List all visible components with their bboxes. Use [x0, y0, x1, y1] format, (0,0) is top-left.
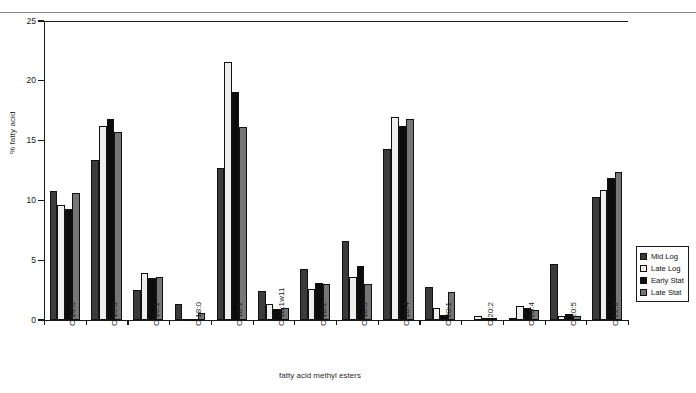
- y-tick-label: 25: [14, 16, 36, 26]
- legend-item: Late Stat: [640, 286, 684, 298]
- bar: [474, 316, 482, 320]
- y-tick-mark: [38, 200, 44, 201]
- x-tick-mark: [294, 320, 295, 325]
- bar: [133, 290, 141, 320]
- y-tick-mark: [38, 80, 44, 81]
- bar: [114, 132, 122, 320]
- legend-label: Late Stat: [651, 288, 681, 297]
- x-category-label: C 16:1: [152, 302, 161, 326]
- bar: [516, 306, 524, 320]
- x-category-label: C 18:3: [360, 302, 369, 326]
- x-category-label: C 20:1: [444, 302, 453, 326]
- x-tick-mark: [628, 320, 629, 325]
- bar: [600, 190, 608, 320]
- x-tick-mark: [378, 320, 379, 325]
- x-tick-mark: [44, 320, 45, 325]
- bar: [182, 319, 190, 321]
- x-category-label: C 18:2: [319, 302, 328, 326]
- x-tick-mark: [461, 320, 462, 325]
- legend-label: Mid Log: [651, 252, 678, 261]
- x-tick-mark: [419, 320, 420, 325]
- legend-swatch: [640, 277, 647, 284]
- x-category-label: C 16:0: [110, 302, 119, 326]
- chart-legend: Mid LogLate LogEarly StatLate Stat: [636, 246, 689, 302]
- x-category-label: C 14:0: [68, 302, 77, 326]
- x-category-label: C 18:4: [402, 302, 411, 326]
- y-tick-label: 20: [14, 75, 36, 85]
- bar: [509, 318, 517, 320]
- x-category-label: C 18:1: [235, 302, 244, 326]
- plot-area: [44, 21, 628, 320]
- bar: [300, 269, 308, 320]
- bar: [107, 119, 115, 320]
- y-tick-mark: [38, 140, 44, 141]
- legend-item: Early Stat: [640, 274, 684, 286]
- bar: [558, 316, 566, 320]
- legend-item: Mid Log: [640, 250, 684, 262]
- x-tick-mark: [86, 320, 87, 325]
- bar: [175, 304, 183, 320]
- bar: [57, 205, 65, 320]
- y-tick-label: 10: [14, 195, 36, 205]
- x-category-label: C 18:0: [194, 302, 203, 326]
- x-category-label: C 18:1w11: [277, 287, 286, 326]
- legend-item: Late Log: [640, 262, 684, 274]
- bar: [399, 126, 407, 320]
- top-rule-divider: [0, 12, 696, 13]
- x-axis-title: fatty acid methyl esters: [0, 371, 640, 380]
- x-tick-mark: [253, 320, 254, 325]
- x-tick-mark: [336, 320, 337, 325]
- y-tick-label: 5: [14, 255, 36, 265]
- legend-swatch: [640, 289, 647, 296]
- x-tick-mark: [169, 320, 170, 325]
- bar: [99, 126, 107, 320]
- bar: [550, 264, 558, 320]
- x-tick-mark: [211, 320, 212, 325]
- bar: [266, 304, 274, 320]
- bar: [607, 178, 615, 320]
- bar: [391, 117, 399, 320]
- y-tick-label: 0: [14, 315, 36, 325]
- x-category-label: C 20:4: [527, 302, 536, 326]
- bar: [258, 291, 266, 320]
- bar: [50, 191, 58, 320]
- bar: [141, 273, 149, 320]
- bar: [91, 160, 99, 320]
- bar: [342, 241, 350, 320]
- x-tick-mark: [503, 320, 504, 325]
- bar: [615, 172, 623, 320]
- x-category-label: C 20:5: [569, 302, 578, 326]
- bar: [239, 127, 247, 320]
- bar: [224, 62, 232, 320]
- legend-label: Late Log: [651, 264, 681, 273]
- y-tick-label: 15: [14, 135, 36, 145]
- chart-figure: % fatty acid 0510152025 C 14:0C 16:0C 16…: [0, 0, 696, 393]
- legend-swatch: [640, 265, 647, 272]
- x-tick-mark: [127, 320, 128, 325]
- legend-label: Early Stat: [651, 276, 684, 285]
- x-tick-mark: [545, 320, 546, 325]
- bar: [349, 277, 357, 320]
- bar: [308, 289, 316, 320]
- bar: [406, 119, 414, 320]
- bar: [592, 197, 600, 320]
- bar: [433, 308, 441, 320]
- x-category-label: C 20:2: [486, 302, 495, 326]
- bar: [383, 149, 391, 320]
- x-tick-mark: [586, 320, 587, 325]
- y-tick-mark: [38, 20, 44, 21]
- y-tick-mark: [38, 260, 44, 261]
- bar: [217, 168, 225, 320]
- x-category-label: C 22:6: [611, 302, 620, 326]
- legend-swatch: [640, 253, 647, 260]
- bar: [232, 92, 240, 320]
- bar: [425, 287, 433, 320]
